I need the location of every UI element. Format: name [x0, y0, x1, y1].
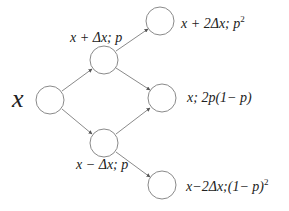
- label-up: x + Δx; p: [70, 31, 122, 45]
- binomial-tree-diagram: x x + Δx; p x − Δx; p x + 2Δx; p2 x; 2p(…: [0, 0, 289, 211]
- label-downdown: x−2Δx;(1− p)2: [186, 178, 269, 194]
- node-up: [90, 46, 118, 74]
- edge-root-down: [62, 109, 92, 134]
- label-down: x − Δx; p: [76, 158, 128, 172]
- edge-root-up: [62, 69, 92, 91]
- label-root: x: [12, 86, 24, 112]
- label-mid-text: x; 2p(1− p): [187, 90, 252, 105]
- label-downdown-text: x−2Δx;(1− p): [186, 179, 264, 194]
- label-upup-exponent: 2: [240, 14, 245, 24]
- node-mid: [148, 84, 176, 112]
- label-upup: x + 2Δx; p2: [181, 15, 245, 31]
- edge-up-mid: [116, 68, 150, 90]
- edge-down-mid: [116, 108, 150, 134]
- label-down-text: x − Δx; p: [76, 157, 128, 172]
- label-mid: x; 2p(1− p): [187, 91, 252, 105]
- node-downdown: [148, 171, 176, 199]
- node-root: [36, 86, 64, 114]
- node-upup: [146, 7, 174, 35]
- node-down: [90, 129, 118, 157]
- label-downdown-exponent: 2: [264, 177, 269, 187]
- label-upup-text: x + 2Δx; p: [181, 16, 240, 31]
- label-up-text: x + Δx; p: [70, 30, 122, 45]
